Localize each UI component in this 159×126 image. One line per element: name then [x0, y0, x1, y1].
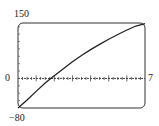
plot-frame [18, 23, 145, 108]
y-max-label: 150 [14, 9, 29, 19]
y-min-label: −80 [9, 113, 25, 123]
y-zero-label: 0 [5, 73, 10, 83]
x-max-label: 7 [148, 73, 153, 83]
data-curve [18, 24, 145, 108]
